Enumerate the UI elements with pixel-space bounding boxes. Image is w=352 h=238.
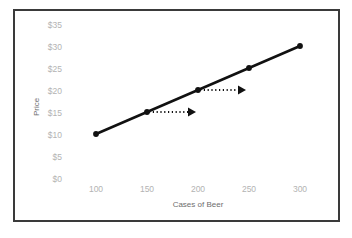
x-tick-label: 100: [89, 184, 103, 194]
y-tick-label: $15: [48, 108, 62, 118]
y-tick-label: $0: [53, 174, 63, 184]
data-point-marker: [246, 65, 252, 71]
y-tick-label: $35: [48, 20, 62, 30]
y-tick-label: $10: [48, 130, 62, 140]
x-axis-title: Cases of Beer: [173, 200, 224, 209]
beer-price-line-chart: $35 $30 $25 $20 $15 $10 $5 $0 Price 100 …: [0, 0, 352, 238]
x-tick-label: 300: [293, 184, 307, 194]
y-tick-label: $20: [48, 86, 62, 96]
x-tick-label: 250: [242, 184, 256, 194]
y-tick-label: $5: [53, 152, 63, 162]
data-point-marker: [93, 131, 99, 137]
data-point-marker: [297, 43, 303, 49]
y-tick-label: $30: [48, 42, 62, 52]
x-tick-label: 200: [191, 184, 205, 194]
y-axis-title: Price: [32, 97, 41, 116]
x-tick-label: 150: [140, 184, 154, 194]
y-tick-label: $25: [48, 64, 62, 74]
